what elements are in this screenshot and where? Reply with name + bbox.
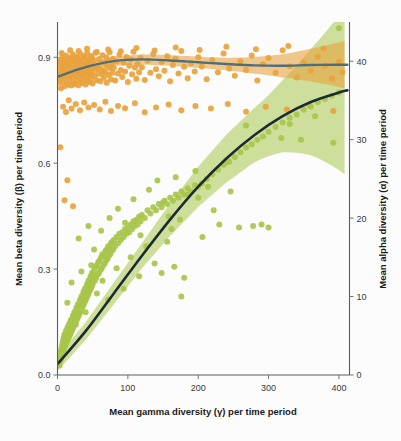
data-point — [285, 43, 291, 49]
y-right-tick-label: 40 — [357, 57, 367, 67]
data-point — [125, 79, 131, 85]
data-point — [159, 270, 165, 276]
data-point — [115, 103, 121, 109]
data-point — [294, 112, 300, 118]
data-point — [237, 58, 243, 64]
data-point — [73, 322, 79, 328]
data-point — [111, 65, 117, 71]
data-point — [97, 107, 103, 113]
x-tick-label: 300 — [261, 383, 276, 393]
data-point — [161, 68, 167, 74]
data-point — [178, 107, 184, 113]
data-point — [339, 69, 345, 75]
data-point — [130, 196, 136, 202]
data-point — [197, 47, 203, 53]
data-point — [181, 275, 187, 281]
plot-canvas: 0.00.30.60.9 010203040 0100200300400 Mea… — [0, 0, 401, 441]
data-point — [146, 187, 152, 193]
data-point — [216, 221, 222, 227]
data-point — [76, 236, 82, 242]
data-point — [118, 48, 124, 54]
data-point — [192, 168, 198, 174]
data-point — [253, 46, 259, 52]
data-point — [249, 53, 255, 59]
data-point — [263, 104, 269, 110]
data-point — [153, 66, 159, 72]
data-point — [228, 188, 234, 194]
y-left-tick-label: 0.3 — [38, 265, 51, 275]
data-point — [171, 264, 177, 270]
data-point — [232, 73, 238, 79]
data-point — [76, 48, 82, 54]
data-point — [278, 135, 284, 141]
data-point — [178, 294, 184, 300]
data-point — [177, 217, 183, 223]
data-point — [266, 129, 272, 135]
y-left-axis-title: Mean beta diversity (β) per time period — [13, 112, 24, 286]
data-point — [142, 109, 148, 115]
data-point — [173, 44, 179, 50]
data-point — [176, 71, 182, 77]
data-point — [70, 203, 76, 209]
data-point — [204, 76, 210, 82]
data-point — [114, 265, 120, 271]
data-point — [88, 262, 94, 268]
data-point — [133, 76, 139, 82]
data-point — [254, 78, 260, 84]
data-point — [170, 198, 176, 204]
data-point — [192, 68, 198, 74]
data-point — [287, 121, 293, 127]
x-tick-label: 400 — [331, 383, 346, 393]
data-point — [132, 100, 138, 106]
data-point — [133, 45, 139, 51]
x-tick-label: 100 — [120, 383, 135, 393]
data-point — [260, 134, 266, 140]
data-point — [142, 77, 148, 83]
data-point — [273, 70, 279, 76]
data-point — [208, 105, 214, 111]
data-point — [315, 54, 321, 60]
data-point — [308, 104, 314, 110]
data-point — [298, 137, 304, 143]
data-point — [243, 123, 249, 129]
data-point — [249, 141, 255, 147]
y-right-tick-label: 0 — [357, 370, 362, 380]
data-point — [147, 210, 153, 216]
data-point — [164, 239, 170, 245]
data-point — [164, 53, 170, 59]
data-point — [136, 273, 142, 279]
data-point — [91, 102, 97, 108]
data-point — [266, 225, 272, 231]
data-point — [69, 105, 75, 111]
data-point — [78, 268, 84, 274]
data-point — [69, 279, 75, 285]
data-point — [336, 25, 342, 31]
y-right-tick-label: 30 — [357, 135, 367, 145]
data-point — [142, 215, 148, 221]
data-point — [84, 46, 90, 52]
data-point — [178, 48, 184, 54]
data-point — [236, 225, 242, 231]
data-point — [64, 177, 70, 183]
data-point — [85, 223, 91, 229]
data-point — [156, 73, 162, 79]
data-point — [73, 101, 79, 107]
data-point — [199, 63, 205, 69]
data-point — [152, 48, 158, 54]
data-point — [223, 44, 229, 50]
data-point — [312, 113, 318, 119]
data-point — [221, 50, 227, 56]
y-right-tick-label: 20 — [357, 214, 367, 224]
data-point — [81, 99, 87, 105]
data-point — [129, 71, 135, 77]
x-axis-title: Mean gamma diversity (γ) per time period — [109, 406, 297, 417]
data-point — [153, 207, 159, 213]
y-right-axis-title: Mean alpha diversity (α) per time period — [377, 109, 388, 289]
data-point — [102, 99, 108, 105]
data-point — [243, 145, 249, 151]
data-point — [83, 309, 89, 315]
data-point — [259, 221, 265, 227]
data-point — [152, 261, 158, 267]
data-point — [250, 223, 256, 229]
y-left-tick-label: 0.0 — [38, 370, 51, 380]
